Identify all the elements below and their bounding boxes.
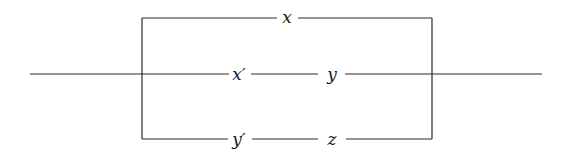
switch-label-yprime: y′: [231, 129, 246, 149]
top-branch: x: [142, 7, 432, 27]
switch-label-xprime: x′: [232, 64, 246, 84]
switch-label-y: y: [326, 64, 337, 84]
switch-label-z: z: [327, 129, 338, 149]
switching-circuit-diagram: x′ y x y′ z: [0, 0, 569, 157]
bottom-branch: y′ z: [142, 129, 432, 149]
switch-label-x: x: [282, 7, 292, 27]
middle-branch: x′ y: [30, 64, 542, 84]
